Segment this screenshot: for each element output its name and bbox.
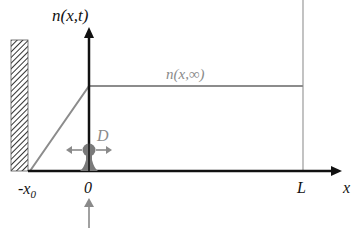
y-axis-label: n(x,t) (52, 6, 89, 25)
x-axis-arrow-icon (331, 166, 342, 176)
tick-label-wall: -x0 (18, 180, 36, 200)
injection-arrow-icon (84, 198, 94, 207)
tick-label-wall-main: -x (18, 180, 30, 197)
tick-label-origin: 0 (84, 179, 92, 196)
x-axis-label: x (342, 179, 350, 196)
steady-state-profile (30, 86, 303, 171)
tick-label-wall-sub: 0 (30, 188, 36, 200)
y-axis-arrow-icon (84, 27, 94, 38)
steady-state-label: n(x,∞) (166, 66, 205, 83)
diffusion-diagram: n(x,t) n(x,∞) D -x0 0 L x (0, 0, 360, 236)
tick-label-length: L (296, 179, 306, 196)
hatched-wall (11, 40, 28, 171)
diffusion-arrow-right-icon (106, 146, 112, 154)
diffusion-label: D (96, 127, 109, 144)
diffusion-arrow-left-icon (66, 146, 72, 154)
